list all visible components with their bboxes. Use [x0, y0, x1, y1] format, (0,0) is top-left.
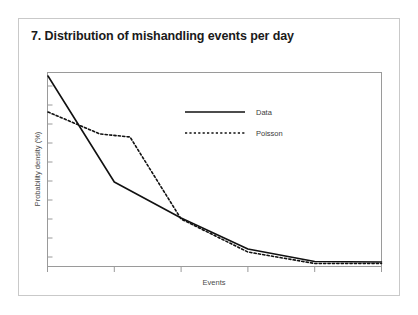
- page-title: 7. Distribution of mishandling events pe…: [31, 29, 294, 43]
- chart-card: 7. Distribution of mishandling events pe…: [18, 18, 400, 296]
